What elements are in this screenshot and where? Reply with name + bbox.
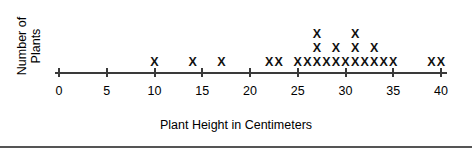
x-axis-tick	[201, 68, 203, 77]
x-axis-tick-label: 30	[331, 84, 361, 98]
data-mark-x: X	[367, 42, 381, 55]
x-axis-tick-label: 0	[44, 84, 74, 98]
x-axis-tick	[154, 68, 156, 77]
data-mark-x: X	[348, 42, 362, 55]
data-mark-x: X	[310, 42, 324, 55]
x-axis-tick	[249, 68, 251, 77]
data-mark-x: X	[434, 56, 448, 69]
x-axis-tick-label: 40	[426, 84, 456, 98]
x-axis-line	[55, 72, 447, 74]
x-axis-tick	[392, 68, 394, 77]
x-axis-tick-label: 10	[140, 84, 170, 98]
x-axis-caption: Plant Height in Centimeters	[0, 118, 472, 132]
x-axis-tick-label: 15	[187, 84, 217, 98]
x-axis-tick-label: 35	[378, 84, 408, 98]
x-axis-tick	[440, 68, 442, 77]
data-mark-x: X	[329, 42, 343, 55]
dot-plot-figure: Number of Plants 0510152025303540 XXXXXX…	[0, 0, 472, 153]
x-axis-tick-label: 20	[235, 84, 265, 98]
data-mark-x: X	[214, 56, 228, 69]
data-mark-x: X	[348, 28, 362, 41]
data-mark-x: X	[386, 56, 400, 69]
bottom-divider	[0, 146, 472, 148]
x-axis-tick	[345, 68, 347, 77]
data-mark-x: X	[148, 56, 162, 69]
x-axis-tick-label: 5	[92, 84, 122, 98]
data-mark-x: X	[310, 28, 324, 41]
x-axis-tick	[106, 68, 108, 77]
plot-area: 0510152025303540 XXXXXXXXXXXXXXXXXXXXXXX…	[0, 0, 472, 105]
data-mark-x: X	[272, 56, 286, 69]
x-axis-tick-label: 25	[283, 84, 313, 98]
x-axis-tick	[297, 68, 299, 77]
data-mark-x: X	[186, 56, 200, 69]
x-axis-tick	[58, 68, 60, 77]
